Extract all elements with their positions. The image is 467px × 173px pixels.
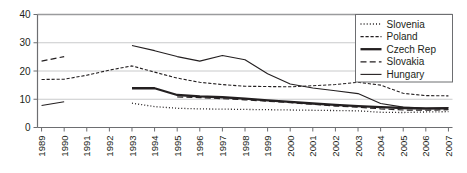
series-line-czech-rep [132,88,448,108]
x-tick-label: 1999 [262,136,273,157]
series-line-hungary [42,102,65,106]
y-tick-label: 20 [19,66,31,77]
y-tick-label: 40 [19,9,31,20]
x-tick-label: 2004 [375,136,386,157]
x-tick-label: 1992 [104,136,115,157]
x-tick-label: 1998 [240,136,251,157]
legend-label: Hungary [387,69,425,80]
x-tick-label: 1996 [194,136,205,157]
x-tick-label: 2006 [420,136,431,157]
x-tick-label: 2000 [285,136,296,157]
y-tick-label: 10 [19,94,31,105]
x-tick-label: 1990 [59,136,70,157]
x-tick-label: 2007 [443,136,454,157]
x-tick-label: 2001 [307,136,318,157]
legend-label: Poland [387,31,418,42]
x-axis-labels: 1989199019911992199319941995199619971998… [36,136,454,157]
x-tick-label: 1993 [127,136,138,157]
x-tick-label: 1989 [36,136,47,157]
chart-legend: SloveniaPolandCzech RepSlovakiaHungary [356,15,453,83]
y-axis-labels: 403020100 [19,9,31,133]
x-tick-label: 1991 [81,136,92,157]
series-line-slovakia [42,57,65,62]
legend-label: Slovakia [387,56,425,67]
x-tick-label: 2005 [398,136,409,157]
x-tick-label: 2002 [330,136,341,157]
legend-label: Slovenia [387,19,426,30]
x-tick-label: 1997 [217,136,228,157]
x-tick-label: 2003 [353,136,364,157]
y-tick-label: 0 [25,122,31,133]
x-tick-label: 1995 [172,136,183,157]
x-tick-label: 1994 [149,136,160,157]
chart-canvas: 403020100 198919901991199219931994199519… [0,0,467,173]
line-chart: 403020100 198919901991199219931994199519… [0,0,467,173]
y-tick-label: 30 [19,37,31,48]
legend-label: Czech Rep [387,44,437,55]
